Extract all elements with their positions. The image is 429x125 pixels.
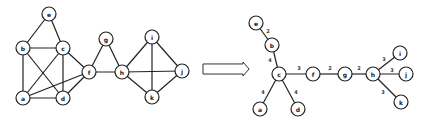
original-node-f: f [82, 65, 96, 79]
node-label: j [180, 68, 183, 76]
edge-weight-labels: 2444322333 [261, 28, 394, 95]
original-node-e: e [42, 7, 56, 21]
original-node-g: g [99, 32, 113, 46]
tree-node-k: k [394, 95, 408, 109]
edge-weight-b-c: 4 [268, 57, 272, 63]
node-label: a [21, 95, 25, 102]
original-node-d: d [56, 91, 70, 105]
tree-node-f: f [306, 67, 320, 81]
diagram-canvas: 2444322333 ebcadfghijk ebcadfghijk [0, 0, 429, 125]
original-node-j: j [175, 64, 189, 78]
original-node-b: b [16, 41, 30, 55]
tree-node-g: g [338, 67, 352, 81]
tree-node-b: b [265, 38, 279, 52]
transform-arrow-icon [203, 62, 249, 76]
tree-node-h: h [366, 67, 380, 81]
tree-node-a: a [253, 102, 267, 116]
node-label: b [21, 45, 26, 52]
node-label: h [120, 69, 124, 76]
edge-weight-h-i: 3 [382, 56, 386, 62]
hollow-arrow-icon [203, 62, 249, 76]
node-label: c [277, 71, 281, 78]
node-label: g [104, 36, 108, 44]
edge-weight-h-j: 3 [390, 67, 394, 73]
node-label: e [254, 20, 258, 27]
node-label: f [312, 71, 315, 78]
original-graph-edges [23, 14, 182, 98]
node-label: a [258, 106, 262, 113]
graph-diagram: 2444322333 ebcadfghijk ebcadfghijk [0, 0, 429, 125]
tree-node-d: d [291, 102, 305, 116]
tree-node-c: c [272, 67, 286, 81]
node-label: f [88, 69, 91, 76]
edge-weight-f-g: 2 [328, 65, 332, 71]
node-label: i [151, 34, 153, 41]
node-label: j [404, 71, 407, 79]
edge-weight-g-h: 2 [357, 65, 361, 71]
original-node-h: h [115, 65, 129, 79]
node-label: g [343, 71, 347, 79]
node-label: e [47, 11, 51, 18]
node-label: i [399, 50, 401, 57]
original-node-c: c [56, 41, 70, 55]
node-label: b [270, 42, 275, 49]
edge-weight-e-b: 2 [266, 28, 270, 34]
node-label: c [61, 45, 65, 52]
edge-weight-c-d: 4 [294, 89, 298, 95]
tree-node-i: i [393, 46, 407, 60]
node-label: d [296, 106, 300, 113]
edge-weight-c-a: 4 [261, 89, 265, 95]
edge-weight-h-k: 3 [381, 89, 385, 95]
edge-weight-c-f: 3 [297, 65, 301, 71]
original-node-a: a [16, 91, 30, 105]
node-label: d [61, 95, 65, 102]
original-node-i: i [145, 30, 159, 44]
original-node-k: k [145, 90, 159, 104]
node-label: h [371, 71, 375, 78]
tree-node-e: e [249, 16, 263, 30]
tree-node-j: j [399, 67, 413, 81]
